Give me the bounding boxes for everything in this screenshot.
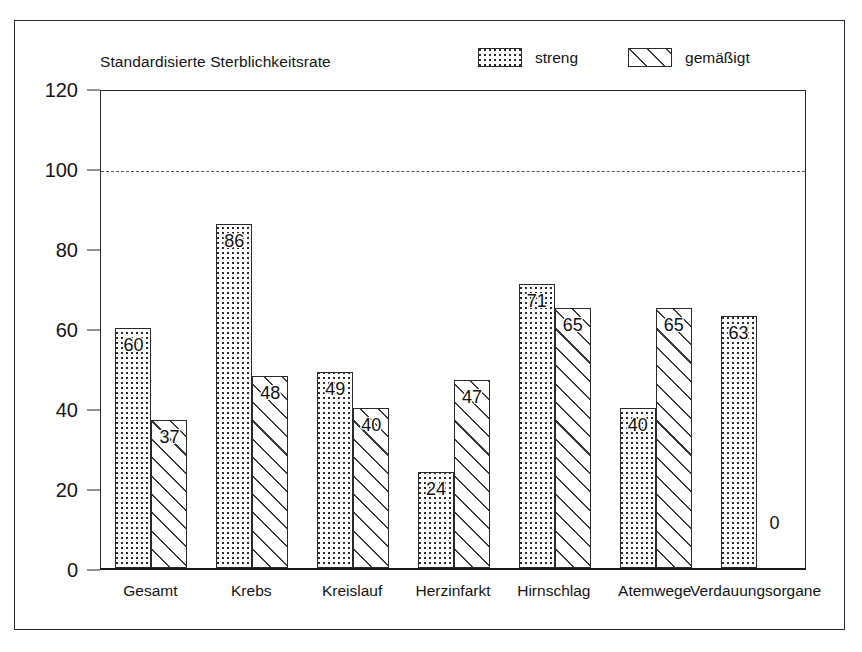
- bar-value-label: 49: [318, 380, 352, 398]
- chart-title: Standardisierte Sterblichkeitsrate: [100, 53, 331, 71]
- bar: 60: [115, 328, 151, 568]
- bar-value-label: 37: [152, 428, 186, 446]
- legend-label-streng: streng: [535, 49, 578, 67]
- bar-value-label: 63: [722, 324, 756, 342]
- legend-swatch-hatch-icon: [628, 48, 672, 67]
- bar-value-label: 60: [116, 336, 150, 354]
- chart-figure: Standardisierte Sterblichkeitsrate stren…: [0, 0, 862, 652]
- bar-value-label: 71: [520, 292, 554, 310]
- x-axis-tick-label: Kreislauf: [322, 582, 382, 600]
- legend-label-gemaessigt: gemäßigt: [685, 49, 750, 67]
- bar-value-label: 24: [419, 480, 453, 498]
- x-axis-tick-label: Herzinfarkt: [416, 582, 491, 600]
- plot-area: 603786484940244771654065630: [100, 90, 806, 570]
- bar: 40: [620, 408, 656, 568]
- x-axis: GesamtKrebsKreislaufHerzinfarktHirnschla…: [100, 582, 806, 610]
- x-axis-tick-label: Hirnschlag: [517, 582, 590, 600]
- bar: 40: [353, 408, 389, 568]
- bar-value-label: 40: [621, 416, 655, 434]
- x-axis-tick-label: Verdauungsorgane: [690, 582, 821, 600]
- legend-swatch-dotted-icon: [478, 48, 522, 67]
- reference-line-100: [101, 171, 805, 172]
- x-axis-tick-label: Gesamt: [123, 582, 177, 600]
- chart-legend: streng gemäßigt: [478, 48, 750, 67]
- bar-value-label: 47: [455, 388, 489, 406]
- bar-value-label: 86: [217, 232, 251, 250]
- bar: 37: [151, 420, 187, 568]
- bar: 65: [555, 308, 591, 568]
- bar: 24: [418, 472, 454, 568]
- bar-value-label: 65: [657, 316, 691, 334]
- bar-value-label: 40: [354, 416, 388, 434]
- legend-entry-streng: streng: [478, 48, 578, 67]
- legend-entry-gemaessigt: gemäßigt: [628, 48, 750, 67]
- bar-value-label: 65: [556, 316, 590, 334]
- x-axis-tick-label: Krebs: [231, 582, 272, 600]
- bar-value-label: 0: [757, 513, 793, 534]
- bar: 86: [216, 224, 252, 568]
- bar: 65: [656, 308, 692, 568]
- bar: 48: [252, 376, 288, 568]
- bar: 71: [519, 284, 555, 568]
- bar: 49: [317, 372, 353, 568]
- bar-value-label: 48: [253, 384, 287, 402]
- x-axis-tick-label: Atemwege: [618, 582, 691, 600]
- bar: 47: [454, 380, 490, 568]
- bar: 63: [721, 316, 757, 568]
